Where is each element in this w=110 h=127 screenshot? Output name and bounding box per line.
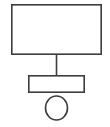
diagram-shape-top-rectangle[interactable] bbox=[12, 5, 101, 54]
diagram-svg bbox=[0, 0, 110, 127]
diagram-canvas bbox=[0, 0, 110, 127]
diagram-shape-middle-rectangle[interactable] bbox=[29, 76, 84, 92]
diagram-shape-bottom-ellipse[interactable] bbox=[46, 96, 68, 120]
